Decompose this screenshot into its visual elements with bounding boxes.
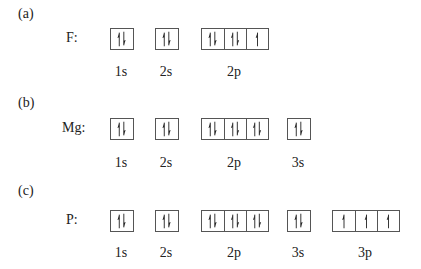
orbital-cell <box>224 211 246 231</box>
orbital-label-1s: 1s <box>101 64 141 80</box>
orbital-cell <box>224 29 246 49</box>
orbital-cell <box>156 211 178 231</box>
orbital-box-3p <box>332 210 400 232</box>
orbital-label-3p: 3p <box>345 245 385 261</box>
orbital-cell <box>355 211 377 231</box>
orbital-cell <box>246 119 268 139</box>
orbital-cell <box>202 119 224 139</box>
orbital-cell <box>377 211 399 231</box>
part-label: (a) <box>18 6 34 22</box>
orbital-label-2p: 2p <box>214 64 254 80</box>
element-symbol: F: <box>66 30 78 46</box>
orbital-box-2p <box>201 118 269 140</box>
orbital-cell <box>156 119 178 139</box>
orbital-cell <box>288 211 310 231</box>
orbital-cell <box>246 211 268 231</box>
orbital-cell <box>288 119 310 139</box>
orbital-label-1s: 1s <box>101 245 141 261</box>
orbital-label-3s: 3s <box>278 245 318 261</box>
orbital-box-2s <box>155 28 179 50</box>
orbital-box-3s <box>287 118 311 140</box>
part-label: (c) <box>18 183 34 199</box>
orbital-label-2s: 2s <box>146 155 186 171</box>
orbital-box-2s <box>155 210 179 232</box>
orbital-box-1s <box>110 28 134 50</box>
orbital-box-1s <box>110 210 134 232</box>
orbital-label-2s: 2s <box>146 64 186 80</box>
orbital-box-2p <box>201 210 269 232</box>
orbital-label-3s: 3s <box>278 155 318 171</box>
orbital-label-2p: 2p <box>214 245 254 261</box>
orbital-cell <box>246 29 268 49</box>
orbital-box-2p <box>201 28 269 50</box>
orbital-cell <box>111 119 133 139</box>
element-symbol: P: <box>66 212 78 228</box>
orbital-box-1s <box>110 118 134 140</box>
orbital-box-2s <box>155 118 179 140</box>
orbital-label-2p: 2p <box>214 155 254 171</box>
orbital-cell <box>224 119 246 139</box>
part-label: (b) <box>18 95 34 111</box>
orbital-cell <box>202 29 224 49</box>
orbital-cell <box>202 211 224 231</box>
orbital-cell <box>111 211 133 231</box>
orbital-label-2s: 2s <box>146 245 186 261</box>
orbital-label-1s: 1s <box>101 155 141 171</box>
orbital-cell <box>333 211 355 231</box>
element-symbol: Mg: <box>62 120 85 136</box>
orbital-box-3s <box>287 210 311 232</box>
orbital-cell <box>111 29 133 49</box>
orbital-cell <box>156 29 178 49</box>
